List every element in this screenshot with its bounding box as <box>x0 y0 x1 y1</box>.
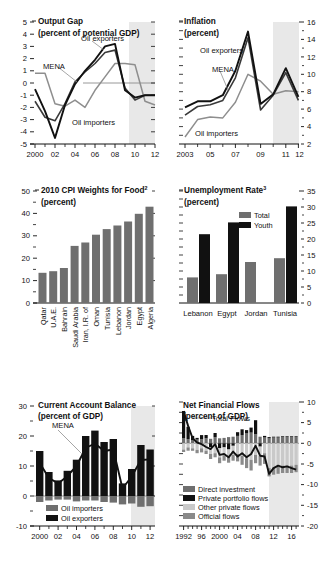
x-tick-label: 12 <box>269 532 277 541</box>
y-tick-label: 20 <box>22 254 30 263</box>
x-tick-label: 11 <box>282 150 290 159</box>
x-tick-label: 12 <box>295 150 303 159</box>
net-financial-flows-chart: 10 5 0 -5 -10 -15 -20 <box>165 376 329 576</box>
bar-lebanon-youth <box>199 234 210 303</box>
legend-label-official: Official flows <box>198 512 240 521</box>
panel-title: Current Account Balance <box>38 401 136 410</box>
legend-label-direct-investment: Direct investment <box>198 485 255 494</box>
legend: Direct investment Private portfolio flow… <box>183 485 269 521</box>
x-ticks <box>40 526 150 530</box>
panel-subtitle: (percent) <box>184 29 219 38</box>
y-tick-label: 10 <box>19 462 27 471</box>
bar-exporters-2012 <box>146 450 153 497</box>
bar-egypt-total <box>216 274 227 303</box>
x-tick-label: 2003 <box>177 150 194 159</box>
y-tick-label: 5 <box>307 283 311 292</box>
legend-label-youth: Youth <box>254 221 273 230</box>
bar-group-1997 <box>205 435 208 454</box>
legend-label-oil-importers: Oil importers <box>61 504 103 513</box>
y-tick-label: 15 <box>307 251 315 260</box>
bar-lebanon <box>113 226 121 304</box>
y-tick-label: 10 <box>307 70 315 79</box>
y-tick-label: 1 <box>23 66 27 75</box>
x-tick-label: 06 <box>91 532 99 541</box>
bar-importers-2006 <box>91 496 98 501</box>
y-tick-label: -2 <box>20 103 27 112</box>
legend-label-other-private: Other private flows <box>198 503 260 512</box>
legend-swatch-oil-importers <box>46 505 58 511</box>
figure-sheet: 5 4 3 2 1 0 -1 -2 -3 -4 -5 <box>0 0 329 576</box>
bar-importers-2009 <box>119 496 126 504</box>
annotation-oil-importers: Oil importers <box>195 129 238 138</box>
y-ticks-right <box>299 191 304 303</box>
bar-exporters-2005 <box>82 436 89 496</box>
bar-egypt <box>135 214 143 303</box>
cpi-bars <box>39 207 154 303</box>
y-tick-label: -10 <box>16 522 27 531</box>
bar-importers-2007 <box>100 496 107 502</box>
bar-exporters-2006 <box>91 431 98 496</box>
y-ticks-left <box>179 191 183 295</box>
bar-group-2003 <box>232 437 235 461</box>
y-tick-label: 0 <box>307 439 311 448</box>
x-tick-label: 16 <box>287 532 295 541</box>
y-tick-label: 2 <box>23 54 27 63</box>
bar-group-2005 <box>241 429 244 465</box>
bar-group-2008 <box>254 420 257 463</box>
y-tick-label: -4 <box>20 127 27 136</box>
bar-saudi-arabia <box>71 246 79 303</box>
bar-group-2017 <box>295 436 298 472</box>
x-tick-label: Lebanon <box>183 309 213 318</box>
bar-importers-2011 <box>137 496 144 507</box>
cat-label: Tunisia <box>103 307 112 330</box>
y-tick-label: 12 <box>307 53 315 62</box>
y-tick-label: -5 <box>307 460 314 469</box>
bar-exporters-2008 <box>110 439 117 496</box>
y-tick-label: 50 <box>22 187 30 196</box>
bar-importers-2000 <box>36 496 43 502</box>
bar-importers-2001 <box>45 496 52 501</box>
y-tick-label: 35 <box>307 187 315 196</box>
y-tick-label: 8 <box>307 87 311 96</box>
y-tick-label: 16 <box>307 18 315 27</box>
bar-importers-2003 <box>64 496 71 500</box>
legend-swatch-other-private <box>183 504 195 510</box>
x-tick-label: 2000 <box>27 150 44 159</box>
y-ticks-left <box>179 22 183 135</box>
x-tick-label: 10 <box>131 150 139 159</box>
x-tick-label: 05 <box>206 150 214 159</box>
cat-label: Bahrain <box>60 307 69 332</box>
panel-title: Net Financial Flows <box>183 401 260 410</box>
cat-label: Qatar <box>39 306 48 325</box>
bar-importers-2012 <box>146 496 153 506</box>
panel-subtitle: (percent of GDP) <box>38 412 103 421</box>
bar-importers-2010 <box>128 496 135 504</box>
x-tick-label: 09 <box>256 150 264 159</box>
bar-group-2006 <box>245 430 248 468</box>
panel-cpi-weights-food: 50 40 30 20 10 0 <box>0 170 165 376</box>
x-tick-label: 04 <box>72 532 80 541</box>
bar-uae <box>49 271 57 303</box>
legend-swatch-youth <box>239 222 251 228</box>
y-tick-label: 30 <box>22 231 30 240</box>
bar-group-2013 <box>277 437 280 474</box>
legend-label-oil-exporters: Oil exporters <box>61 514 103 523</box>
y-ticks-right <box>299 402 304 526</box>
y-tick-label: 14 <box>307 35 315 44</box>
y-tick-label: 20 <box>19 432 27 441</box>
annotation-mena: MENA <box>212 65 235 74</box>
y-tick-label: 10 <box>307 398 315 407</box>
x-ticks <box>184 526 297 530</box>
panel-title: Inflation <box>184 17 216 26</box>
cat-label: Jordan <box>124 307 133 329</box>
x-tick-label: 08 <box>109 532 117 541</box>
panel-subtitle: (percent) <box>184 198 219 207</box>
y-tick-label: 0 <box>23 79 27 88</box>
y-tick-label: -15 <box>307 501 318 510</box>
legend-swatch-private-portfolio <box>183 495 195 501</box>
bar-lebanon-total <box>187 277 198 303</box>
x-ticks <box>185 144 298 148</box>
x-tick-label: 04 <box>233 532 241 541</box>
bar-algeria <box>146 207 154 303</box>
legend-label-total: Total <box>254 211 270 220</box>
